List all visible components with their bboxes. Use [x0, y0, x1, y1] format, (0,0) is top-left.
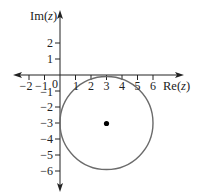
y-tick-label: −5 [40, 148, 53, 162]
y-tick-label: 1 [47, 52, 53, 66]
x-tick-label: 5 [135, 79, 141, 93]
x-tick-label: 6 [150, 79, 156, 93]
x-axis-label-func: Re( [163, 79, 181, 93]
y-axis-label: Im(z) [30, 9, 57, 23]
imaginary-axis [55, 10, 63, 192]
y-axis-label-func: Im( [30, 9, 48, 23]
y-tick-label: −2 [40, 100, 53, 114]
y-tick-label: −3 [40, 116, 53, 130]
y-tick-label: 2 [47, 36, 53, 50]
x-tick-label: 4 [119, 79, 125, 93]
x-tick-label: −2 [20, 79, 33, 93]
y-tick-labels: 2 1 −1 −2 −3 −4 −5 −6 [40, 36, 53, 178]
center-point [104, 121, 109, 126]
y-tick-label: −6 [40, 164, 53, 178]
y-tick-label: −4 [40, 132, 53, 146]
x-tick-label: 1 [73, 79, 79, 93]
y-axis-label-close: ) [53, 9, 57, 23]
x-axis-label-close: ) [186, 79, 190, 93]
x-tick-label: 2 [88, 79, 94, 93]
y-tick-label: −1 [40, 85, 53, 99]
complex-plane-diagram: −2 −1 0 1 2 3 4 5 6 2 1 −1 −2 −3 −4 −5 −… [0, 0, 197, 196]
x-tick-label: 3 [104, 79, 110, 93]
x-axis-label: Re(z) [163, 79, 190, 93]
